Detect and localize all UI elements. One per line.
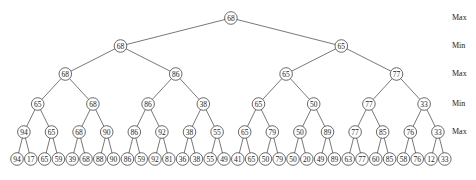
node-value: 17 bbox=[27, 155, 35, 164]
tree-node: 90 bbox=[100, 126, 113, 139]
node-value: 20 bbox=[303, 155, 311, 164]
tree-edge bbox=[231, 18, 341, 46]
leaf-node: 92 bbox=[149, 153, 162, 166]
leaf-node: 50 bbox=[259, 153, 272, 166]
node-value: 76 bbox=[413, 155, 421, 164]
leaf-node: 55 bbox=[204, 153, 217, 166]
tree-edge bbox=[286, 46, 341, 74]
leaf-node: 58 bbox=[397, 153, 410, 166]
node-value: 92 bbox=[158, 128, 166, 137]
leaf-node: 68 bbox=[80, 153, 93, 166]
node-value: 94 bbox=[13, 155, 21, 164]
node-value: 33 bbox=[441, 155, 449, 164]
node-value: 88 bbox=[96, 155, 104, 164]
leaf-node: 65 bbox=[38, 153, 51, 166]
minimax-tree: 6868656886657765688638655077339465689086… bbox=[0, 0, 476, 180]
leaf-node: 65 bbox=[245, 153, 258, 166]
tree-node: 89 bbox=[321, 126, 334, 139]
node-value: 77 bbox=[393, 70, 401, 79]
leaf-node: 90 bbox=[107, 153, 120, 166]
tree-node: 77 bbox=[363, 98, 376, 111]
node-value: 50 bbox=[262, 155, 270, 164]
node-value: 65 bbox=[255, 100, 263, 109]
tree-edge bbox=[341, 46, 396, 74]
tree-node: 65 bbox=[335, 40, 348, 53]
node-value: 77 bbox=[351, 128, 359, 137]
node-value: 63 bbox=[344, 155, 352, 164]
leaf-node: 49 bbox=[314, 153, 327, 166]
leaf-node: 41 bbox=[232, 153, 245, 166]
node-value: 50 bbox=[310, 100, 318, 109]
node-value: 65 bbox=[48, 128, 56, 137]
node-value: 38 bbox=[186, 128, 194, 137]
level-label-min-3: Min bbox=[452, 99, 465, 108]
level-label-max-2: Max bbox=[452, 69, 467, 78]
level-label-min-1: Min bbox=[452, 41, 465, 50]
leaf-node: 50 bbox=[287, 153, 300, 166]
tree-node: 50 bbox=[307, 98, 320, 111]
tree-node: 65 bbox=[252, 98, 265, 111]
tree-node: 65 bbox=[238, 126, 251, 139]
node-value: 68 bbox=[89, 100, 97, 109]
node-value: 81 bbox=[165, 155, 173, 164]
tree-node: 65 bbox=[280, 68, 293, 81]
node-value: 59 bbox=[137, 155, 145, 164]
node-value: 49 bbox=[220, 155, 228, 164]
node-value: 89 bbox=[324, 128, 332, 137]
node-value: 65 bbox=[282, 70, 290, 79]
tree-node: 68 bbox=[114, 40, 127, 53]
node-value: 92 bbox=[151, 155, 159, 164]
leaf-node: 79 bbox=[273, 153, 286, 166]
leaf-node: 86 bbox=[121, 153, 134, 166]
node-value: 33 bbox=[434, 128, 442, 137]
leaf-node: 77 bbox=[356, 153, 369, 166]
node-value: 12 bbox=[427, 155, 435, 164]
leaf-node: 94 bbox=[11, 153, 24, 166]
node-value: 86 bbox=[131, 128, 139, 137]
node-value: 90 bbox=[110, 155, 118, 164]
tree-edge bbox=[121, 18, 231, 46]
level-label-max-4: Max bbox=[452, 127, 467, 136]
leaf-node: 60 bbox=[370, 153, 383, 166]
tree-node: 33 bbox=[418, 98, 431, 111]
tree-node: 85 bbox=[376, 126, 389, 139]
leaf-node: 85 bbox=[383, 153, 396, 166]
leaf-node: 76 bbox=[411, 153, 424, 166]
node-value: 68 bbox=[82, 155, 90, 164]
tree-node: 68 bbox=[87, 98, 100, 111]
node-value: 55 bbox=[206, 155, 214, 164]
tree-node: 65 bbox=[45, 126, 58, 139]
node-value: 94 bbox=[20, 128, 28, 137]
node-value: 79 bbox=[269, 128, 277, 137]
leaf-node: 39 bbox=[66, 153, 79, 166]
node-value: 68 bbox=[227, 14, 235, 23]
tree-node: 86 bbox=[142, 98, 155, 111]
node-value: 36 bbox=[179, 155, 187, 164]
leaf-node: 38 bbox=[190, 153, 203, 166]
tree-node: 68 bbox=[225, 12, 238, 25]
node-value: 85 bbox=[379, 128, 387, 137]
tree-node: 33 bbox=[432, 126, 445, 139]
node-value: 76 bbox=[407, 128, 415, 137]
tree-node: 77 bbox=[349, 126, 362, 139]
node-value: 65 bbox=[248, 155, 256, 164]
tree-node: 55 bbox=[211, 126, 224, 139]
node-value: 38 bbox=[200, 100, 208, 109]
leaf-node: 33 bbox=[439, 153, 452, 166]
leaf-node: 89 bbox=[328, 153, 341, 166]
tree-node: 38 bbox=[183, 126, 196, 139]
leaf-node: 59 bbox=[135, 153, 148, 166]
node-value: 65 bbox=[241, 128, 249, 137]
node-value: 86 bbox=[124, 155, 132, 164]
node-value: 68 bbox=[117, 42, 125, 51]
node-value: 65 bbox=[338, 42, 346, 51]
leaf-node: 59 bbox=[52, 153, 65, 166]
node-value: 77 bbox=[365, 100, 373, 109]
tree-edge bbox=[65, 46, 120, 74]
tree-node: 68 bbox=[73, 126, 86, 139]
node-value: 65 bbox=[34, 100, 42, 109]
node-value: 58 bbox=[400, 155, 408, 164]
tree-node: 92 bbox=[156, 126, 169, 139]
node-value: 68 bbox=[62, 70, 70, 79]
leaf-node: 49 bbox=[218, 153, 231, 166]
